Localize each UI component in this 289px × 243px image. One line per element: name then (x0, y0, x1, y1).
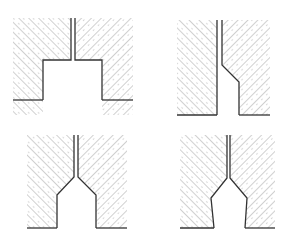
panel-bottom-left (27, 135, 127, 228)
right-block (222, 20, 270, 115)
right-block (78, 135, 127, 228)
left-block (177, 20, 217, 115)
left-block (27, 135, 74, 228)
right-block (230, 135, 275, 228)
panel-top-right (177, 20, 270, 115)
panel-bottom-right (180, 135, 275, 228)
joint-sections-diagram (0, 0, 289, 243)
left-block (180, 135, 227, 228)
panel-top-left (13, 18, 133, 115)
